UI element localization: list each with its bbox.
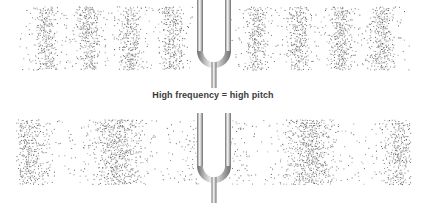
high-frequency-caption: High frequency = high pitch	[0, 90, 426, 100]
high-frequency-tuning-fork	[0, 0, 426, 95]
sound-frequency-diagram: High frequency = high pitch Low frequenc…	[0, 0, 426, 224]
caption-equals-sign: =	[222, 90, 227, 100]
high-frequency-panel: High frequency = high pitch	[0, 0, 426, 110]
caption-right-text: high pitch	[230, 90, 274, 100]
low-frequency-panel: Low frequency = low pitch	[0, 113, 426, 224]
caption-left-text: High frequency	[152, 90, 219, 100]
low-frequency-tuning-fork	[0, 113, 426, 208]
